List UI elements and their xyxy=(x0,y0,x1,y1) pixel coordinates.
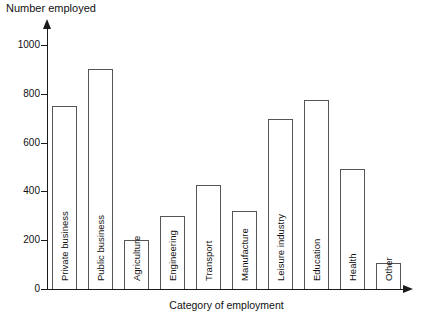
x-axis-arrow-icon xyxy=(403,285,413,293)
y-axis-tick xyxy=(41,191,48,192)
y-axis-tick xyxy=(41,45,48,46)
y-axis-tick-label: 800 xyxy=(0,89,40,99)
y-axis-line xyxy=(47,27,48,290)
y-axis-tick-label: 600 xyxy=(0,138,40,148)
y-axis-tick-label: 400 xyxy=(0,186,40,196)
y-axis-tick-label: 0 xyxy=(0,284,40,294)
bar-category-label: Health xyxy=(348,254,358,281)
y-axis-title: Number employed xyxy=(6,2,96,15)
bar-category-label: Other xyxy=(384,257,394,281)
y-axis-tick-label: 1000 xyxy=(0,40,40,50)
bar-category-label: Leisure industry xyxy=(276,214,286,281)
bar-category-label: Engineering xyxy=(168,230,178,281)
y-axis-tick xyxy=(41,289,48,290)
bar-category-label: Transport xyxy=(204,241,214,281)
y-axis-tick xyxy=(41,240,48,241)
bar-category-label: Public business xyxy=(96,215,106,281)
y-axis-tick xyxy=(41,94,48,95)
bar-category-label: Agriculture xyxy=(132,236,142,281)
bar-category-label: Private business xyxy=(60,211,70,281)
bar-chart: Number employed 02004006008001000 Privat… xyxy=(0,0,425,321)
x-axis-title: Category of employment xyxy=(0,299,425,311)
bar-category-label: Manufacture xyxy=(240,228,250,281)
y-axis-tick-label: 200 xyxy=(0,235,40,245)
bar-category-label: Education xyxy=(312,239,322,281)
y-axis-tick xyxy=(41,143,48,144)
x-axis-line xyxy=(47,289,405,290)
